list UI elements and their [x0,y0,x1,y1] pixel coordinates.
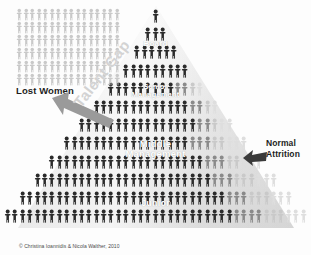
person-icon [218,135,225,151]
talent-gap-arrow [52,92,116,128]
person-icon [159,26,166,42]
person-icon [122,99,129,115]
person-icon [204,135,211,151]
person-icon [4,208,11,224]
person-icon [204,154,211,170]
person-icon [78,154,85,170]
person-icon [34,208,41,224]
person-icon [270,172,277,188]
person-icon [181,81,188,97]
person-icon [285,208,292,224]
lost-women-row [16,60,120,73]
person-icon [218,172,225,188]
person-icon [167,117,174,133]
person-icon [130,135,137,151]
person-icon [226,135,233,151]
person-icon [152,81,159,97]
person-icon [137,81,144,97]
person-icon [196,154,203,170]
person-icon [152,63,159,79]
person-icon [107,172,114,188]
person-icon [34,172,41,188]
person-icon [114,47,121,60]
person-icon [48,190,55,206]
person-icon [78,190,85,206]
person-icon [144,172,151,188]
person-icon [159,135,166,151]
person-icon [144,117,151,133]
person-icon [189,154,196,170]
person-icon [122,154,129,170]
person-icon [152,99,159,115]
person-icon [144,135,151,151]
normal-attrition-line2: Attrition [266,149,300,160]
person-icon [211,99,218,115]
person-icon [285,190,292,206]
person-icon [152,208,159,224]
person-icon [137,154,144,170]
person-icon [137,99,144,115]
person-icon [115,208,122,224]
person-icon [189,190,196,206]
person-icon [218,154,225,170]
person-icon [141,44,148,60]
person-icon [189,81,196,97]
copyright-credit: © Christina Ioannidis & Nicola Walther, … [19,243,119,249]
person-icon [270,190,277,206]
person-icon [71,154,78,170]
person-icon [100,135,107,151]
person-icon [263,190,270,206]
person-icon [41,190,48,206]
person-icon [93,190,100,206]
person-icon [48,172,55,188]
person-icon [167,190,174,206]
person-icon [48,154,55,170]
person-icon [163,44,170,60]
person-icon [204,208,211,224]
person-icon [167,81,174,97]
person-icon [226,172,233,188]
person-icon [159,81,166,97]
person-icon [122,63,129,79]
person-icon [152,190,159,206]
person-icon [144,99,151,115]
person-icon [137,208,144,224]
person-icon [174,135,181,151]
person-icon [189,135,196,151]
person-icon [218,208,225,224]
person-icon [204,117,211,133]
person-icon [277,208,284,224]
person-icon [196,190,203,206]
person-icon [226,154,233,170]
person-icon [56,154,63,170]
person-icon [226,117,233,133]
lost-women-block [16,8,120,82]
person-icon [152,135,159,151]
person-icon [189,99,196,115]
person-icon [56,172,63,188]
person-icon [174,99,181,115]
person-icon [248,208,255,224]
person-icon [233,208,240,224]
person-icon [174,117,181,133]
pyramid-row [0,190,311,206]
person-icon [159,172,166,188]
person-icon [292,208,299,224]
person-icon [115,154,122,170]
person-icon [19,208,26,224]
person-icon [174,81,181,97]
person-icon [122,190,129,206]
person-icon [277,190,284,206]
diagram-canvas: Board Senior Management Middle Managemen… [0,0,311,255]
person-icon [85,190,92,206]
person-icon [152,172,159,188]
person-icon [255,208,262,224]
person-icon [181,117,188,133]
person-icon [114,73,121,86]
person-icon [63,208,70,224]
pyramid-row [0,117,311,133]
person-icon [100,172,107,188]
person-icon [78,208,85,224]
person-icon [233,135,240,151]
person-icon [174,190,181,206]
